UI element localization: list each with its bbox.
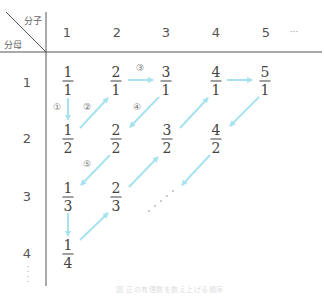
denominator: 2 xyxy=(112,141,121,156)
figure-caption: 図 正の有理数を数え上げる順序 xyxy=(70,284,270,294)
column-header-4: 4 xyxy=(212,25,220,40)
arrow-5-1-to-4-2 xyxy=(230,97,259,126)
step-marker-4: ④ xyxy=(133,102,141,112)
denominator: 2 xyxy=(212,141,221,156)
numerator: 4 xyxy=(212,123,221,138)
fraction-2-1: 21 xyxy=(111,65,122,98)
arrow-2-3-to-3-2 xyxy=(129,157,158,187)
diagonal-ellipsis xyxy=(145,185,185,215)
arrow-1-4-to-2-3 xyxy=(80,213,108,240)
numerator: 2 xyxy=(112,181,121,196)
numerator: 5 xyxy=(261,65,270,80)
fraction-4-1: 41 xyxy=(211,65,222,98)
fraction-1-1: 11 xyxy=(63,65,74,98)
row-header-4: 4 xyxy=(23,246,31,261)
step-marker-3: ③ xyxy=(136,63,144,73)
row-header-2: 2 xyxy=(23,131,31,146)
denominator: 1 xyxy=(64,83,73,98)
numerator: 1 xyxy=(64,123,73,138)
numerator: 3 xyxy=(163,123,172,138)
fraction-2-2: 22 xyxy=(111,123,122,156)
fraction-1-4: 14 xyxy=(63,238,74,271)
denominator: 2 xyxy=(64,141,73,156)
fraction-1-2: 12 xyxy=(63,123,74,156)
arrow-3-2-to-4-1 xyxy=(180,98,208,128)
step-marker-5: ⑤ xyxy=(83,159,91,169)
denominator: 1 xyxy=(112,83,121,98)
numerator: 1 xyxy=(64,181,73,196)
denominator: 1 xyxy=(212,83,221,98)
column-header-2: 2 xyxy=(113,25,121,40)
numerator: 1 xyxy=(64,238,73,253)
column-header-1: 1 xyxy=(63,25,71,40)
step-marker-1: ① xyxy=(53,102,61,112)
denominator: 4 xyxy=(64,256,73,271)
numerator: 1 xyxy=(64,65,73,80)
numerator: 2 xyxy=(112,123,121,138)
denominator: 1 xyxy=(261,83,270,98)
denominator: 3 xyxy=(64,199,73,214)
fraction-3-1: 31 xyxy=(161,65,172,98)
fraction-1-3: 13 xyxy=(63,181,74,214)
numerator: 4 xyxy=(212,65,221,80)
denominator-label: 分母 xyxy=(4,38,22,51)
numerator-label: 分子 xyxy=(24,14,42,27)
fraction-2-3: 23 xyxy=(111,181,122,214)
denominator: 3 xyxy=(112,199,121,214)
fraction-3-2: 32 xyxy=(162,123,173,156)
fraction-4-2: 42 xyxy=(211,123,222,156)
column-ellipsis: ··· xyxy=(290,27,299,37)
column-header-5: 5 xyxy=(262,25,270,40)
denominator: 2 xyxy=(163,141,172,156)
numerator: 3 xyxy=(162,65,171,80)
step-marker-2: ② xyxy=(83,102,91,112)
fraction-5-1: 51 xyxy=(260,65,271,98)
row-ellipsis: ···· xyxy=(27,264,30,284)
row-header-1: 1 xyxy=(23,75,31,90)
numerator: 2 xyxy=(112,65,121,80)
row-header-3: 3 xyxy=(23,189,31,204)
denominator: 1 xyxy=(162,83,171,98)
arrow-4-2-continue xyxy=(182,155,210,185)
column-header-3: 3 xyxy=(162,25,170,40)
